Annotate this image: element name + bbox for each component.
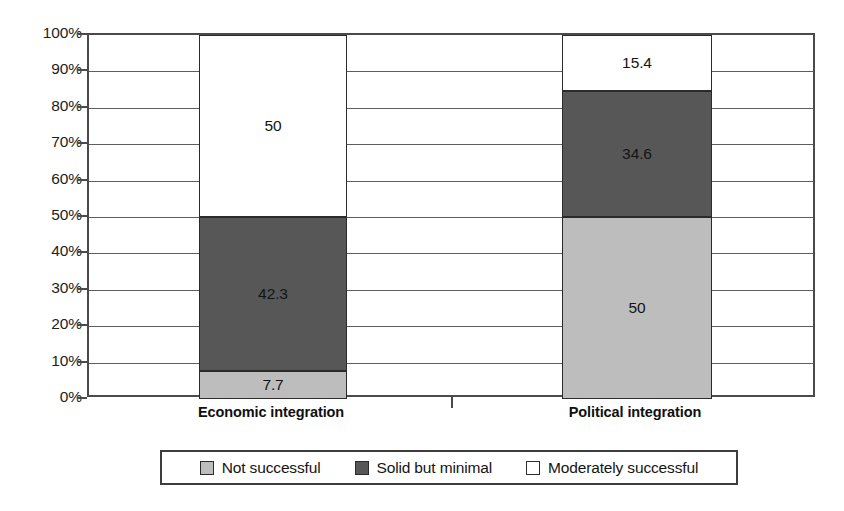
y-axis-tick-mark — [78, 397, 87, 399]
legend-item[interactable]: Not successful — [200, 460, 321, 476]
bar-segment-value-label: 15.4 — [622, 55, 652, 71]
legend-label: Not successful — [222, 460, 321, 476]
y-axis-tick-label: 20% — [8, 316, 82, 332]
y-axis-tick-label: 60% — [8, 171, 82, 187]
bar-segment[interactable]: 50 — [562, 217, 712, 399]
legend-label: Moderately successful — [548, 460, 698, 476]
bar-economic-integration[interactable]: 7.742.350 — [199, 35, 347, 399]
y-axis: 100%90%80%70%60%50%40%30%20%10%0% — [0, 0, 82, 511]
legend-swatch-icon — [200, 461, 214, 475]
bar-segment-value-label: 42.3 — [258, 286, 288, 302]
y-axis-tick-label: 40% — [8, 243, 82, 259]
y-axis-tick-label: 0% — [8, 389, 82, 405]
bar-segment[interactable]: 34.6 — [562, 91, 712, 217]
y-axis-tick-mark — [78, 361, 87, 363]
bar-segment[interactable]: 7.7 — [199, 371, 347, 399]
y-axis-tick-label: 10% — [8, 353, 82, 369]
bar-segment[interactable]: 15.4 — [562, 35, 712, 91]
bar-segment-value-label: 50 — [264, 118, 281, 134]
y-axis-tick-mark — [78, 251, 87, 253]
legend-label: Solid but minimal — [377, 460, 492, 476]
y-axis-tick-label: 90% — [8, 61, 82, 77]
y-axis-tick-mark — [78, 33, 87, 35]
y-axis-tick-mark — [78, 142, 87, 144]
y-axis-tick-mark — [78, 69, 87, 71]
y-axis-tick-label: 50% — [8, 207, 82, 223]
y-axis-tick-label: 100% — [8, 25, 82, 41]
chart-legend: Not successfulSolid but minimalModeratel… — [160, 450, 738, 485]
category-label: Economic integration — [141, 404, 401, 420]
y-axis-tick-label: 70% — [8, 134, 82, 150]
y-axis-tick-label: 30% — [8, 280, 82, 296]
y-axis-tick-mark — [78, 288, 87, 290]
legend-item[interactable]: Moderately successful — [526, 460, 698, 476]
legend-item[interactable]: Solid but minimal — [355, 460, 492, 476]
stacked-bar-chart: 100%90%80%70%60%50%40%30%20%10%0% 7.742.… — [0, 0, 844, 511]
legend-swatch-icon — [526, 461, 540, 475]
y-axis-tick-mark — [78, 106, 87, 108]
y-axis-tick-mark — [78, 179, 87, 181]
bar-segment-value-label: 50 — [628, 300, 645, 316]
y-axis-tick-mark — [78, 324, 87, 326]
category-axis-tick — [451, 397, 453, 408]
bar-political-integration[interactable]: 5034.615.4 — [562, 35, 712, 399]
plot-area: 7.742.3505034.615.4 — [87, 33, 815, 397]
bar-segment-value-label: 7.7 — [262, 377, 283, 393]
category-label: Political integration — [505, 404, 765, 420]
bar-segment[interactable]: 42.3 — [199, 217, 347, 371]
y-axis-tick-label: 80% — [8, 98, 82, 114]
y-axis-tick-mark — [78, 215, 87, 217]
bar-segment-value-label: 34.6 — [622, 146, 652, 162]
legend-swatch-icon — [355, 461, 369, 475]
bar-segment[interactable]: 50 — [199, 35, 347, 217]
